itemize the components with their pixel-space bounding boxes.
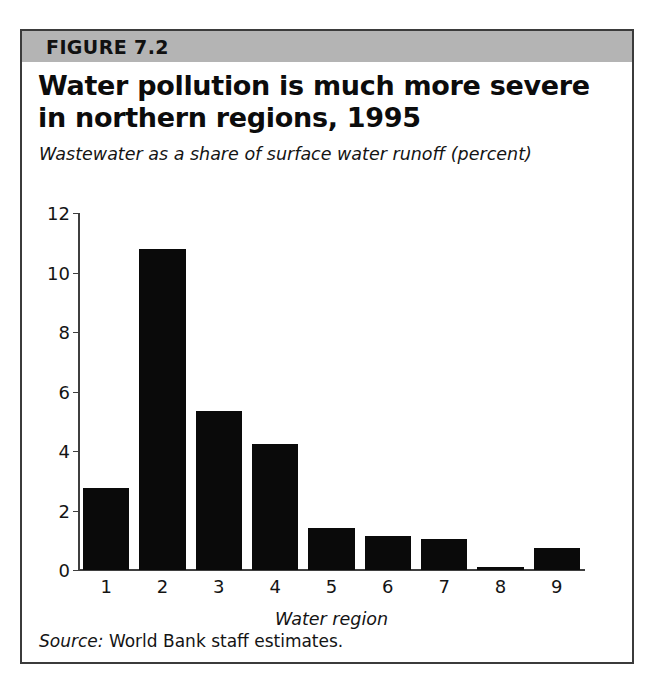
x-axis-tick-label: 2 [157,576,168,597]
source-note: Source: World Bank staff estimates. [39,631,343,651]
y-axis-tick-label: 8 [30,322,70,343]
x-axis-tick-label: 4 [269,576,280,597]
bar [83,488,129,570]
x-axis-tick-label: 9 [551,576,562,597]
y-axis-tick-label: 10 [30,262,70,283]
bar [534,548,580,570]
source-label: Source: [39,631,104,651]
bar [139,249,185,570]
x-axis-tick-label: 3 [213,576,224,597]
bar [252,444,298,570]
bar [308,528,354,570]
x-axis-tick-label: 8 [495,576,506,597]
x-axis-tick-label: 7 [438,576,449,597]
y-axis-tick-label: 2 [30,500,70,521]
y-axis-tick-label: 0 [30,560,70,581]
bar [477,567,523,570]
y-axis-tick-mark [73,570,78,571]
y-axis-tick-label: 4 [30,441,70,462]
chart-plot-area: 024681012 123456789 Water region [22,31,636,666]
source-text: World Bank staff estimates. [109,631,343,651]
bar [421,539,467,570]
bar [196,411,242,570]
x-axis-tick-label: 6 [382,576,393,597]
y-axis-tick-label: 6 [30,381,70,402]
x-axis-title: Water region [78,609,585,629]
figure-frame: FIGURE 7.2 Water pollution is much more … [20,29,634,664]
x-axis-tick-label: 5 [326,576,337,597]
bar [365,536,411,570]
bars-container [78,213,585,570]
x-axis-tick-label: 1 [100,576,111,597]
y-axis-tick-label: 12 [30,203,70,224]
